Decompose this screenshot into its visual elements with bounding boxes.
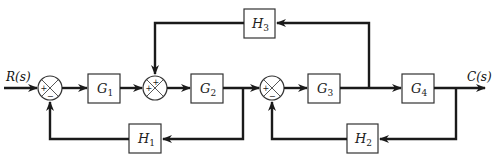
h2-to-s3-arrow bbox=[272, 102, 347, 139]
block-h1-label: H bbox=[137, 131, 150, 146]
block-g1: G1 bbox=[88, 74, 120, 103]
block-g2: G2 bbox=[191, 74, 223, 103]
block-g1-label: G bbox=[97, 81, 107, 96]
h3-to-s2-arrow bbox=[155, 23, 244, 74]
summing-junction-1: + − bbox=[38, 76, 62, 101]
block-g4-label: G bbox=[411, 81, 421, 96]
block-g2-label: G bbox=[200, 81, 210, 96]
block-g1-subscript: 1 bbox=[107, 88, 113, 98]
block-g2-subscript: 2 bbox=[210, 88, 216, 98]
block-h3-label: H bbox=[251, 16, 264, 31]
block-g4: G4 bbox=[402, 74, 434, 103]
block-h1: H1 bbox=[129, 124, 161, 153]
summing-junction-2: + + bbox=[143, 76, 167, 100]
summing-junction-3: + − bbox=[260, 76, 284, 101]
sign-plus: + bbox=[153, 78, 160, 87]
block-h2-label: H bbox=[354, 131, 367, 146]
block-h3-subscript: 3 bbox=[263, 23, 269, 33]
block-h3: H3 bbox=[244, 9, 275, 38]
sign-minus: − bbox=[269, 92, 276, 101]
sign-minus: − bbox=[47, 92, 54, 101]
input-signal-label: R(s) bbox=[5, 70, 31, 84]
block-h2-subscript: 2 bbox=[366, 138, 372, 148]
block-h2: H2 bbox=[347, 124, 378, 153]
block-g4-subscript: 4 bbox=[421, 88, 427, 98]
block-g3-subscript: 3 bbox=[327, 88, 333, 98]
h1-to-s1-arrow bbox=[50, 102, 129, 139]
block-g3: G3 bbox=[308, 74, 340, 103]
block-g3-label: G bbox=[317, 81, 327, 96]
output-signal-label: C(s) bbox=[467, 70, 492, 84]
block-diagram: R(s) + − G1 + + G2 H1 + − bbox=[0, 0, 493, 163]
block-h1-subscript: 1 bbox=[149, 138, 155, 148]
sign-plus: + bbox=[146, 84, 153, 93]
